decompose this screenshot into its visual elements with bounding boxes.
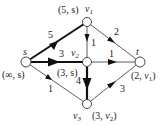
node-v1 [83,18,92,27]
node-t [135,57,145,67]
v1-mark-label: (5, s) [58,4,79,16]
weight-v2-v3: 4 [76,75,81,86]
node-v2 [83,58,92,67]
arrow-icon [45,74,52,80]
arrow-icon [107,37,115,44]
node-s [21,57,31,67]
weight-v3-t: 3 [120,83,125,94]
weight-v1-t: 2 [114,26,119,37]
arrow-icon [83,78,92,90]
s-name-label: s [23,46,27,57]
network-diagram: s (∞, s) (5, s) v1 v2 (3, s) t (2, v1) v… [0,0,166,126]
weight-s-v2: 3 [59,48,64,59]
s-mark-label: (∞, s) [2,69,25,81]
node-v3 [83,100,92,109]
t-mark-label: (2, v1) [131,70,156,83]
t-name-label: t [136,46,139,57]
v2-name-label: v2 [71,47,79,60]
weight-s-v3: 1 [48,83,53,94]
arrow-icon [85,34,90,42]
v1-name-label: v1 [85,3,93,16]
v3-mark-label: (3, v2) [92,110,117,123]
arrow-icon [49,41,58,50]
weight-v2-t: 1 [109,48,114,59]
v2-mark-label: (3, s) [57,67,78,79]
weight-s-v1: 5 [48,29,53,40]
weight-v1-v2: 1 [91,37,96,48]
arrow-icon [108,59,117,65]
v3-name-label: v3 [73,110,81,123]
